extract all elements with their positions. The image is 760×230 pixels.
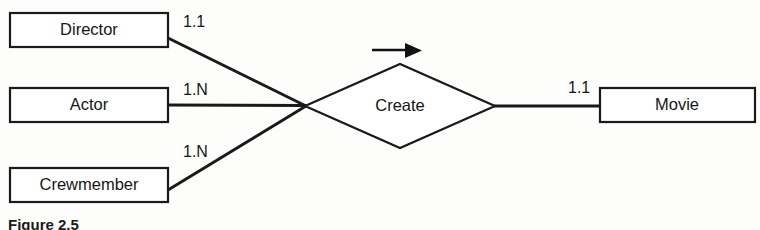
actor-label: Actor — [70, 95, 109, 113]
crewmember-label: Crewmember — [39, 175, 139, 193]
entity-crewmember[interactable]: Crewmember — [10, 168, 168, 202]
entity-director[interactable]: Director — [10, 13, 168, 47]
cardinality-director: 1.1 — [183, 13, 205, 30]
entity-movie[interactable]: Movie — [600, 88, 755, 122]
direction-arrow — [372, 43, 422, 58]
director-label: Director — [60, 20, 118, 38]
entity-actor[interactable]: Actor — [10, 88, 168, 122]
cardinality-crewmember: 1.N — [183, 143, 208, 160]
relationship-create[interactable]: Create — [305, 64, 495, 148]
cardinality-movie: 1.1 — [568, 79, 590, 96]
cardinality-actor: 1.N — [183, 81, 208, 98]
connector-actor-create — [168, 105, 306, 106]
movie-label: Movie — [655, 95, 699, 113]
direction-arrow-head — [405, 43, 422, 58]
figure-caption: Figure 2.5 — [8, 216, 79, 230]
er-diagram: Create Director Actor Crewmember Movie 1… — [0, 0, 760, 230]
figure-page: Create Director Actor Crewmember Movie 1… — [0, 0, 760, 230]
create-label: Create — [375, 96, 425, 114]
